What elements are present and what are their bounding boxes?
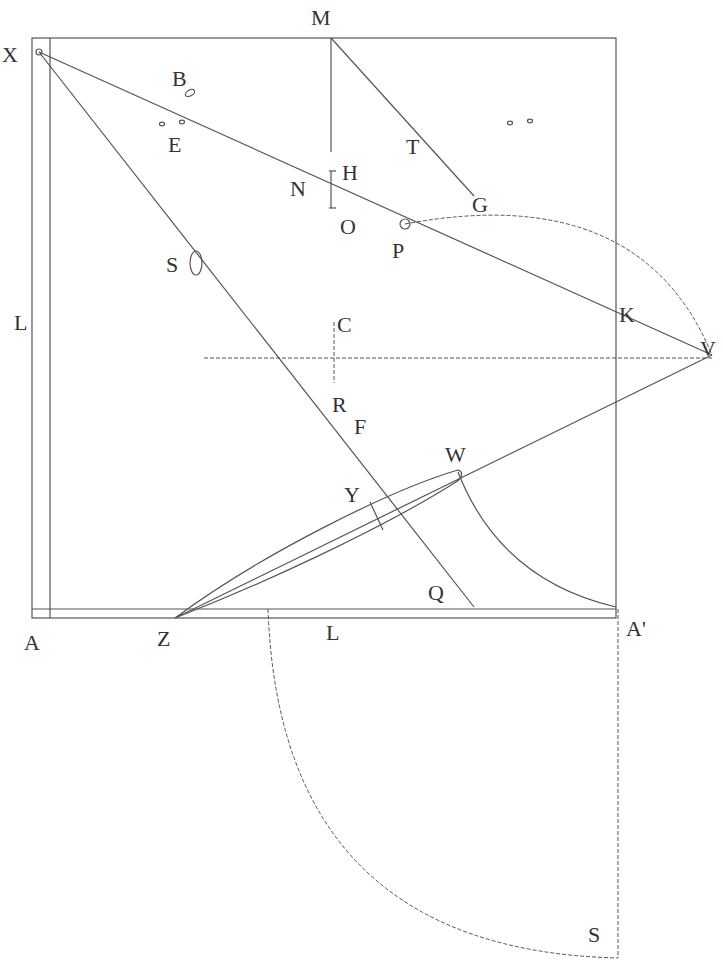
line-X-V bbox=[39, 52, 712, 355]
label-X: X bbox=[2, 42, 18, 67]
point-E-right bbox=[180, 120, 185, 124]
label-A: A bbox=[24, 630, 40, 655]
label-K: K bbox=[619, 302, 635, 327]
label-L-bottom: L bbox=[326, 620, 339, 645]
arc-lower-quarter bbox=[268, 609, 618, 958]
label-Y: Y bbox=[344, 482, 360, 507]
label-A-prime: A' bbox=[626, 616, 646, 641]
geometric-diagram: X M B E T H N G O P S L K C V R F W Y Q … bbox=[0, 0, 723, 966]
label-S-upper: S bbox=[166, 252, 178, 277]
line-V-Z bbox=[175, 355, 712, 618]
label-H: H bbox=[342, 160, 358, 185]
point-E-left bbox=[160, 122, 165, 126]
label-L-left: L bbox=[14, 310, 27, 335]
dot-right-1 bbox=[508, 121, 513, 125]
line-Y-cross bbox=[370, 502, 383, 530]
label-V: V bbox=[700, 336, 716, 361]
label-W: W bbox=[445, 442, 466, 467]
label-P: P bbox=[392, 238, 404, 263]
label-Q: Q bbox=[428, 580, 444, 605]
label-F: F bbox=[354, 414, 366, 439]
point-S bbox=[190, 251, 202, 275]
arc-W-Aprime bbox=[458, 472, 616, 607]
label-R: R bbox=[332, 392, 347, 417]
dot-right-2 bbox=[528, 119, 533, 123]
label-E: E bbox=[168, 132, 181, 157]
label-Z: Z bbox=[157, 626, 170, 651]
lens-Z-W bbox=[175, 470, 462, 618]
label-B: B bbox=[172, 66, 187, 91]
label-C: C bbox=[337, 312, 352, 337]
outer-frame bbox=[32, 38, 616, 618]
label-G: G bbox=[472, 192, 488, 217]
label-S-lower: S bbox=[588, 922, 600, 947]
label-N: N bbox=[290, 176, 306, 201]
label-M: M bbox=[311, 5, 331, 30]
label-O: O bbox=[340, 214, 356, 239]
label-T: T bbox=[406, 134, 420, 159]
